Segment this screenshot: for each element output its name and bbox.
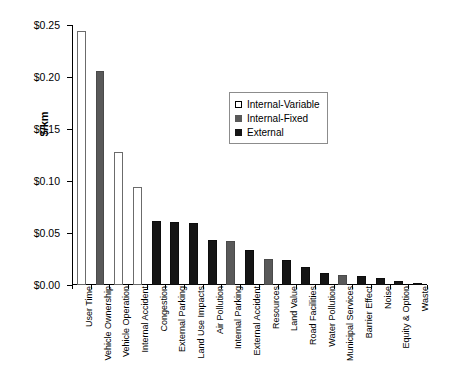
bar	[394, 281, 403, 285]
bar	[96, 71, 105, 285]
bar	[264, 259, 273, 285]
bar	[133, 187, 142, 285]
x-axis-label: External Accident	[253, 286, 262, 356]
bar	[170, 222, 179, 285]
bar	[208, 240, 217, 285]
bar	[338, 275, 347, 285]
bar	[77, 31, 86, 285]
x-axis-label: Congestion	[160, 286, 169, 332]
bar	[301, 267, 310, 285]
plot-area: $0.00$0.05$0.10$0.15$0.20$0.25	[72, 25, 427, 285]
y-tick-label: $0.10	[34, 175, 60, 187]
y-tick-label: $0.25	[34, 19, 60, 31]
x-axis-labels: User TimeVehicle OwnershipVehicle Operat…	[72, 286, 427, 384]
x-axis-label: Road Facilities	[309, 286, 318, 345]
x-axis-label: Air Pollution	[216, 286, 225, 334]
legend-swatch-icon	[235, 101, 242, 108]
bar	[114, 152, 123, 285]
bar	[413, 283, 422, 285]
legend-item: Internal-Variable	[235, 97, 320, 111]
legend-label: Internal-Fixed	[247, 113, 308, 124]
x-axis-label: Internal Accident	[141, 286, 150, 353]
x-axis-label: Vehicle Ownership	[104, 286, 113, 361]
x-axis-label: User Time	[85, 286, 94, 327]
x-axis-label: Barrier Effect	[365, 286, 374, 338]
x-axis-label: Land Use Impacts	[197, 286, 206, 359]
bar	[152, 221, 161, 285]
bar	[357, 276, 366, 285]
x-axis-label: Land Value	[290, 286, 299, 331]
bar-chart: $/km $0.00$0.05$0.10$0.15$0.20$0.25 User…	[0, 0, 456, 386]
legend-swatch-icon	[235, 115, 242, 122]
x-axis-label: Waste	[421, 286, 430, 311]
bar	[226, 241, 235, 285]
y-tick-label: $0.15	[34, 123, 60, 135]
x-axis-label: Municipal Services	[346, 286, 355, 361]
y-tick-label: $0.05	[34, 227, 60, 239]
y-tick-label: $0.20	[34, 71, 60, 83]
y-tick-label: $0.00	[34, 279, 60, 291]
legend-swatch-icon	[235, 129, 242, 136]
x-axis-label: Equity & Option	[402, 286, 411, 349]
x-axis-label: Internal Parking	[234, 286, 243, 349]
bar	[282, 260, 291, 285]
bar	[376, 278, 385, 285]
bar	[245, 250, 254, 285]
bar	[320, 273, 329, 285]
x-axis-label: Water Pollution	[328, 286, 337, 347]
legend-item: External	[235, 125, 320, 139]
x-axis-label: Noise	[384, 286, 393, 309]
legend-item: Internal-Fixed	[235, 111, 320, 125]
bar-series	[72, 25, 427, 285]
x-axis-label: Resources	[272, 286, 281, 329]
x-axis-label: Vehicle Operation	[122, 286, 131, 357]
chart-legend: Internal-VariableInternal-FixedExternal	[229, 92, 328, 144]
legend-label: Internal-Variable	[247, 99, 320, 110]
x-axis-label: External Parking	[178, 286, 187, 352]
legend-label: External	[247, 127, 284, 138]
bar	[189, 223, 198, 285]
